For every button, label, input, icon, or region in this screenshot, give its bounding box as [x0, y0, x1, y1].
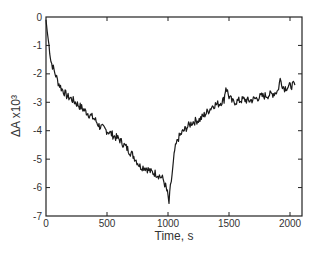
axis-tick-labels: 05001000150020000-1-2-3-4-5-6-7 — [33, 12, 301, 230]
y-tick-label: -4 — [33, 125, 42, 136]
y-tick-label: 0 — [36, 12, 42, 23]
chart: 05001000150020000-1-2-3-4-5-6-7 Time, s … — [0, 0, 321, 253]
y-tick-label: -2 — [33, 68, 42, 79]
axis-ticks — [46, 17, 302, 216]
y-tick-label: -1 — [33, 40, 42, 51]
y-tick-label: -3 — [33, 97, 42, 108]
x-axis-label: Time, s — [155, 229, 194, 243]
plot-frame — [46, 17, 302, 216]
x-tick-label: 0 — [43, 218, 49, 229]
x-tick-label: 1000 — [157, 218, 180, 229]
y-tick-label: -7 — [33, 211, 42, 222]
y-tick-label: -6 — [33, 182, 42, 193]
data-line — [46, 20, 295, 204]
plot-border — [46, 17, 302, 216]
x-tick-label: 500 — [99, 218, 116, 229]
x-tick-label: 2000 — [279, 218, 302, 229]
x-tick-label: 1500 — [218, 218, 241, 229]
y-axis-label: ΔA x10³ — [9, 95, 23, 137]
y-tick-label: -5 — [33, 154, 42, 165]
